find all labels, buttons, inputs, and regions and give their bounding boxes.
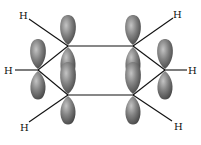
orbital-lobes-front [30,15,173,125]
p-orbital-lobe [30,71,45,100]
hydrogen-label-top-left: H [19,10,28,21]
hydrogen-label-bottom-right: H [174,121,183,132]
hydrogen-label-right: H [188,65,197,76]
benzene-orbital-diagram: H H H H H H [0,0,201,145]
p-orbital-lobe [125,62,141,94]
diagram-svg: H H H H H H [0,0,201,145]
hydrogen-labels: H H H H H H [4,9,197,133]
hydrogen-label-bottom-left: H [20,122,29,133]
hydrogen-label-left: H [4,65,13,76]
p-orbital-lobe [30,39,46,69]
orbital-lobes-back [60,47,141,94]
p-orbital-lobe [125,15,141,45]
p-orbital-lobe [60,96,75,125]
p-orbital-lobe [157,71,172,100]
p-orbital-lobe [60,15,76,45]
p-orbital-lobe [125,96,140,125]
p-orbital-lobe [157,39,173,69]
bonds [15,18,187,122]
p-orbital-lobe [60,62,76,94]
hydrogen-label-top-right: H [173,9,182,20]
